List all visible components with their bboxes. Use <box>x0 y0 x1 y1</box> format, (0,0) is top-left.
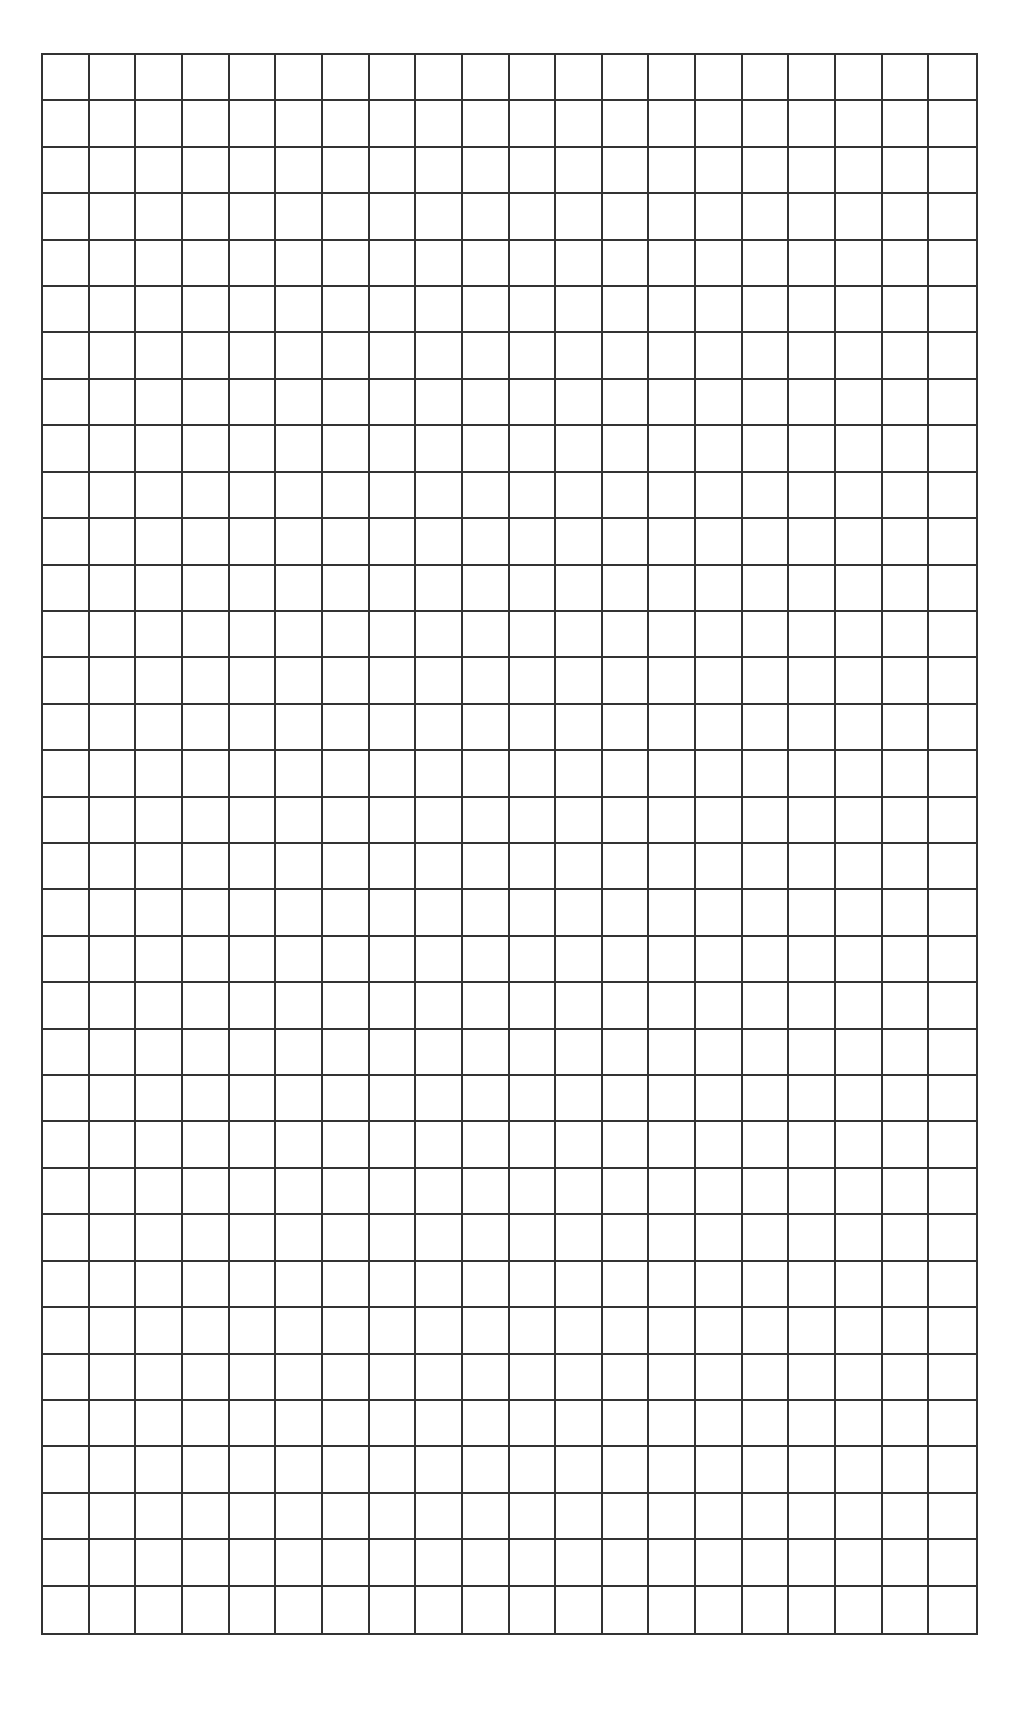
grid-cell <box>603 101 650 147</box>
grid-cell <box>556 241 603 287</box>
grid-cell <box>416 566 463 612</box>
grid-cell <box>370 1494 417 1540</box>
grid-cell <box>463 1355 510 1401</box>
grid-cell <box>929 566 976 612</box>
grid-cell <box>649 101 696 147</box>
grid-cell <box>276 1076 323 1122</box>
grid-cell <box>836 1169 883 1215</box>
grid-cell <box>510 1030 557 1076</box>
grid-cell <box>463 148 510 194</box>
grid-cell <box>43 658 90 704</box>
grid-cell <box>510 937 557 983</box>
grid-cell <box>276 287 323 333</box>
grid-cell <box>370 1540 417 1586</box>
grid-cell <box>696 1030 743 1076</box>
graph-paper-sheet <box>0 0 1022 1725</box>
grid-cell <box>183 890 230 936</box>
grid-cell <box>649 1540 696 1586</box>
grid-cell <box>183 1355 230 1401</box>
grid-cell <box>743 1030 790 1076</box>
grid-cell <box>136 1215 183 1261</box>
grid-cell <box>743 751 790 797</box>
grid-cell <box>696 1540 743 1586</box>
grid-cell <box>696 890 743 936</box>
grid-cell <box>883 148 930 194</box>
grid-cell <box>789 1215 836 1261</box>
grid-cell <box>230 1076 277 1122</box>
grid-cell <box>183 1401 230 1447</box>
grid-cell <box>276 1308 323 1354</box>
grid-cell <box>136 658 183 704</box>
grid-cell <box>183 844 230 890</box>
grid-cell <box>510 566 557 612</box>
grid-cell <box>603 473 650 519</box>
grid-cell <box>370 426 417 472</box>
grid-cell <box>90 844 137 890</box>
grid-cell <box>649 1030 696 1076</box>
grid-cell <box>883 1308 930 1354</box>
grid-cell <box>510 705 557 751</box>
grid-cell <box>43 287 90 333</box>
grid-cell <box>883 1122 930 1168</box>
grid-cell <box>463 1401 510 1447</box>
grid-cell <box>883 612 930 658</box>
grid-cell <box>323 1262 370 1308</box>
grid-cell <box>183 55 230 101</box>
grid-cell <box>789 380 836 426</box>
grid-cell <box>370 1076 417 1122</box>
grid-cell <box>929 1447 976 1493</box>
grid-cell <box>696 798 743 844</box>
grid-cell <box>743 473 790 519</box>
grid-cell <box>510 101 557 147</box>
grid-cell <box>836 55 883 101</box>
grid-cell <box>136 983 183 1029</box>
grid-cell <box>510 1447 557 1493</box>
grid-cell <box>416 1262 463 1308</box>
grid-cell <box>276 473 323 519</box>
grid-cell <box>929 1030 976 1076</box>
grid-cell <box>883 380 930 426</box>
grid-cell <box>43 1215 90 1261</box>
grid-cell <box>929 890 976 936</box>
grid-cell <box>230 1215 277 1261</box>
grid-cell <box>276 844 323 890</box>
grid-cell <box>276 148 323 194</box>
grid-cell <box>789 1076 836 1122</box>
grid-cell <box>230 519 277 565</box>
grid-cell <box>696 1355 743 1401</box>
grid-cell <box>743 1355 790 1401</box>
grid-cell <box>696 380 743 426</box>
grid-cell <box>510 519 557 565</box>
grid-cell <box>556 566 603 612</box>
grid-cell <box>230 798 277 844</box>
grid-cell <box>883 983 930 1029</box>
grid-cell <box>649 287 696 333</box>
grid-cell <box>603 1262 650 1308</box>
grid-cell <box>463 1494 510 1540</box>
grid-cell <box>789 473 836 519</box>
grid-cell <box>836 1540 883 1586</box>
grid-cell <box>883 287 930 333</box>
grid-cell <box>463 751 510 797</box>
grid-cell <box>43 333 90 379</box>
grid-cell <box>556 1355 603 1401</box>
grid-cell <box>836 1494 883 1540</box>
grid-cell <box>136 937 183 983</box>
grid-cell <box>603 937 650 983</box>
grid-cell <box>743 101 790 147</box>
grid-cell <box>136 1447 183 1493</box>
grid-cell <box>43 194 90 240</box>
grid-cell <box>276 241 323 287</box>
grid-cell <box>789 1308 836 1354</box>
grid-cell <box>603 380 650 426</box>
grid-cell <box>323 612 370 658</box>
grid-cell <box>883 1355 930 1401</box>
grid-cell <box>743 1122 790 1168</box>
grid-cell <box>836 1308 883 1354</box>
grid-cell <box>136 241 183 287</box>
grid-cell <box>136 1355 183 1401</box>
grid-cell <box>463 612 510 658</box>
grid-cell <box>230 612 277 658</box>
grid-cell <box>276 1122 323 1168</box>
grid-cell <box>929 937 976 983</box>
